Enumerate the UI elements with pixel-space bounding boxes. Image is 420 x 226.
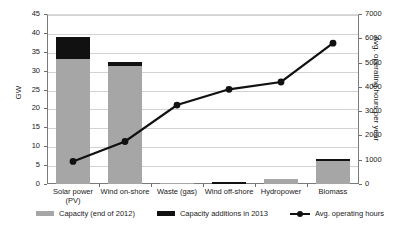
chart-container: GW Avg. operating hours per year 0510152… (0, 0, 420, 226)
legend-label: Capacity (end of 2012) (59, 209, 135, 218)
legend-label: Avg. operating hours (315, 209, 384, 218)
line-data-point (70, 158, 77, 165)
legend-swatch-capacity-icon (36, 211, 54, 216)
line-data-point (226, 86, 233, 93)
legend-line-marker-icon (290, 210, 310, 217)
legend-label: Capacity additions in 2013 (180, 209, 268, 218)
legend-item: Avg. operating hours (290, 209, 384, 218)
legend-swatch-additions-icon (157, 211, 175, 216)
legend-item: Capacity (end of 2012) (36, 209, 135, 218)
legend-item: Capacity additions in 2013 (157, 209, 268, 218)
line-avg-operating-hours (73, 43, 333, 161)
line-data-point (174, 102, 181, 109)
line-data-point (330, 40, 337, 47)
line-data-point (278, 79, 285, 86)
line-data-point (122, 138, 129, 145)
chart-legend: Capacity (end of 2012)Capacity additions… (0, 206, 420, 220)
line-series-layer (0, 0, 420, 226)
